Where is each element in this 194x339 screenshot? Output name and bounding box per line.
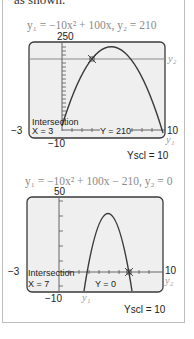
graph2-intersection-label: Intersection: [28, 268, 75, 278]
graph2-y2-label: y₂: [165, 275, 173, 286]
graph1-y2-label: y₂: [168, 53, 176, 64]
graph2-x-value: X = 7: [28, 279, 49, 289]
graph2-yscl: Yscl = 10: [124, 304, 165, 315]
graph2-xmin: −3: [8, 266, 19, 277]
graph1-ymin: −10: [48, 138, 65, 149]
graph1-y1-label: y₁: [166, 134, 174, 145]
graph1-y-value: Y = 210: [100, 126, 131, 136]
graph2-equation: y₁ = −10x² + 100x − 210, y₂ = 0: [25, 175, 172, 187]
graph1-xmin: −3: [11, 125, 22, 136]
graph2-y-value: Y = 0: [95, 279, 116, 289]
graph2-ymax: 50: [54, 186, 65, 197]
graph2-y1-label: y₁: [82, 292, 90, 303]
graph2-ymin: −10: [45, 293, 62, 304]
graph1-x-value: X = 3: [32, 126, 53, 136]
graph1-yscl: Yscl = 10: [127, 150, 168, 161]
